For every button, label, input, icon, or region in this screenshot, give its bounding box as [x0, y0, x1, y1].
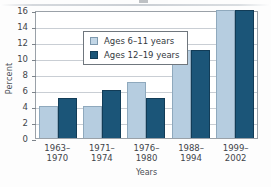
legend: Ages 6–11 years Ages 12–19 years: [83, 31, 188, 65]
y-tick-label: 8: [12, 71, 28, 79]
legend-swatch-ages-12-19: [90, 51, 98, 59]
bar: [216, 10, 235, 138]
x-axis-tick-labels: 1963–19701971–19741976–19801988–19941999…: [35, 143, 258, 163]
legend-swatch-ages-6-11: [90, 37, 98, 45]
bar: [235, 10, 254, 138]
bar: [191, 50, 210, 138]
bar: [127, 82, 146, 138]
x-tick-label: 1963–1970: [35, 143, 79, 163]
y-tick-label: 2: [12, 119, 28, 127]
bar-group: [39, 12, 77, 138]
y-tick-label: 0: [12, 135, 28, 143]
x-axis-title: Years: [35, 168, 258, 177]
bar: [146, 98, 165, 138]
bar: [102, 90, 121, 138]
y-tick-label: 16: [12, 7, 28, 15]
bar-group: [216, 12, 254, 138]
page-top-edge: [0, 4, 271, 6]
y-tick-label: 10: [12, 55, 28, 63]
x-tick-label: 1976–1980: [124, 143, 168, 163]
y-tick-label: 4: [12, 103, 28, 111]
bar: [83, 106, 102, 138]
x-tick-label: 1999–2002: [214, 143, 258, 163]
y-tick-label: 14: [12, 23, 28, 31]
legend-label-ages-12-19: Ages 12–19 years: [104, 50, 180, 60]
x-tick-label: 1971–1974: [80, 143, 124, 163]
cropped-title-fragment: [139, 0, 148, 3]
legend-label-ages-6-11: Ages 6–11 years: [104, 36, 174, 46]
bar: [58, 98, 77, 138]
y-tick-label: 12: [12, 39, 28, 47]
bar-chart-figure: Percent 1614121086420 Ages 6–11 years Ag…: [0, 0, 271, 187]
y-tick-mark: [32, 140, 36, 141]
y-tick-label: 6: [12, 87, 28, 95]
bar: [39, 106, 58, 138]
legend-item: Ages 12–19 years: [90, 50, 180, 60]
plot-area: Ages 6–11 years Ages 12–19 years: [35, 11, 258, 139]
x-tick-label: 1988–1994: [169, 143, 213, 163]
legend-item: Ages 6–11 years: [90, 36, 180, 46]
